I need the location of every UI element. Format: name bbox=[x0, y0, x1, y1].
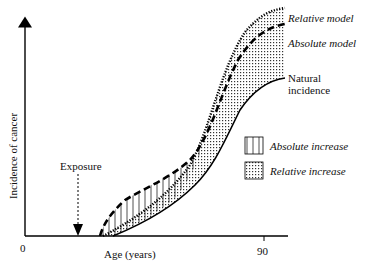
x-axis-label: Age (years) bbox=[104, 248, 156, 260]
y-axis-label: Incidence of cancer bbox=[7, 101, 19, 211]
x-tick-90-label: 90 bbox=[257, 245, 268, 257]
exposure-label: Exposure bbox=[60, 160, 102, 172]
legend-swatch-relative bbox=[245, 162, 263, 179]
natural-label-line2: incidence bbox=[288, 84, 330, 96]
relative-model-label: Relative model bbox=[288, 12, 354, 24]
exposure-arrowhead bbox=[73, 224, 83, 236]
absolute-model-label: Absolute model bbox=[288, 37, 356, 49]
legend-swatch-absolute bbox=[245, 137, 263, 154]
legend-relative-label: Relative increase bbox=[270, 165, 346, 177]
legend-absolute-label: Absolute increase bbox=[270, 140, 348, 152]
natural-label-line1: Natural bbox=[288, 72, 321, 84]
x-tick-0: 0 bbox=[20, 242, 26, 254]
